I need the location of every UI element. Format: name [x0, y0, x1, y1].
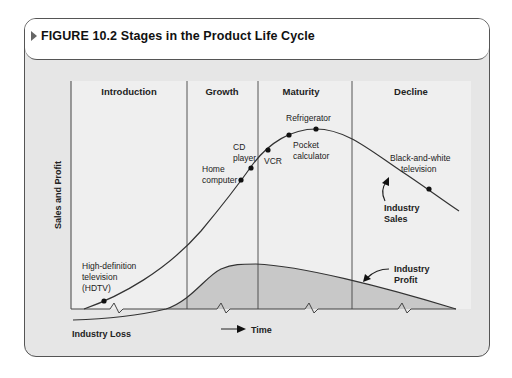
dot-vcr: [265, 147, 270, 152]
dot-cd-player: [248, 165, 253, 170]
label-pocket-calculator-1: Pocket: [293, 140, 320, 150]
dot-bw-television: [426, 186, 431, 191]
dot-pocket-calculator: [286, 132, 291, 137]
label-hdtv-1: High-definition: [82, 261, 137, 271]
label-industry-loss: Industry Loss: [72, 329, 131, 339]
product-life-cycle-chart: Introduction Growth Maturity Decline Sal…: [25, 19, 489, 356]
dot-hdtv: [101, 298, 106, 303]
stage-decline: Decline: [394, 86, 428, 97]
y-axis-label: Sales and Profit: [53, 161, 63, 229]
dot-refrigerator: [313, 126, 318, 131]
label-home-computer-1: Home: [202, 164, 225, 174]
label-hdtv-3: (HDTV): [82, 283, 111, 293]
label-industry-sales-2: Sales: [384, 214, 408, 224]
label-refrigerator: Refrigerator: [286, 113, 331, 123]
label-bw-tv-1: Black-and-white: [390, 153, 451, 163]
label-hdtv-2: television: [82, 272, 118, 282]
label-industry-profit-2: Profit: [394, 275, 418, 285]
label-home-computer-2: computer: [202, 175, 238, 185]
stage-maturity: Maturity: [283, 86, 321, 97]
stage-introduction: Introduction: [101, 86, 157, 97]
time-arrow-icon: [237, 325, 246, 333]
label-industry-sales-1: Industry: [384, 203, 420, 213]
dot-home-computer: [238, 177, 243, 182]
label-cd-player-1: CD: [233, 142, 245, 152]
label-cd-player-2: player: [233, 153, 256, 163]
label-vcr: VCR: [264, 156, 282, 166]
x-axis-label: Time: [251, 325, 272, 335]
label-industry-profit-1: Industry: [394, 264, 430, 274]
figure-frame: FIGURE 10.2 Stages in the Product Life C…: [24, 18, 490, 357]
stage-growth: Growth: [205, 86, 238, 97]
label-bw-tv-2: television: [401, 164, 437, 174]
label-pocket-calculator-2: calculator: [293, 151, 330, 161]
